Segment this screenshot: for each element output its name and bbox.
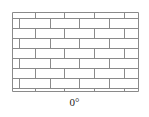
angle-label: 0° — [0, 96, 149, 108]
